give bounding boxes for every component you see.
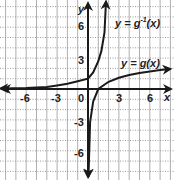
y-axis-label: y: [78, 4, 84, 15]
x-tick-0: 0: [78, 93, 84, 104]
y-tick-3: 3: [78, 55, 84, 66]
x-tick-minus-6: -6: [20, 93, 30, 104]
ginv-label-suffix: (x): [147, 17, 160, 29]
x-tick-3: 3: [116, 93, 122, 104]
ginv-label-prefix: y = g: [115, 17, 140, 29]
y-tick-minus-6: -6: [74, 148, 84, 159]
y-tick-6: 6: [78, 21, 84, 32]
x-axis-label: x: [164, 92, 170, 103]
x-tick-6: 6: [147, 93, 153, 104]
g-label: y = g(x): [121, 58, 160, 69]
y-tick-minus-3: -3: [74, 117, 84, 128]
x-tick-minus-3: -3: [51, 93, 61, 104]
ginv-label: y = g-1(x): [115, 16, 160, 29]
